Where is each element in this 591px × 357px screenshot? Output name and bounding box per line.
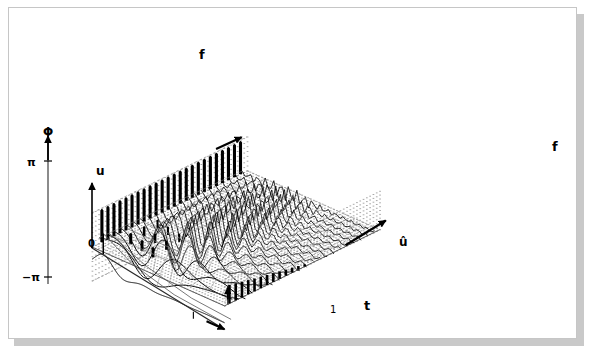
figure-root: f f t u û 0 1 Φ π −π <box>0 0 591 357</box>
axis-label-f-right: f <box>552 140 558 153</box>
t-tick-label-one: 1 <box>330 305 336 315</box>
figure-svg <box>0 0 591 357</box>
origin-tick-label: 0 <box>88 239 95 249</box>
axis-label-t: t <box>364 299 370 312</box>
figure-canvas: f f t u û 0 1 Φ π −π <box>0 0 591 357</box>
axis-label-u: u <box>96 165 105 177</box>
axis-label-f-back: f <box>199 48 205 61</box>
axis-label-phi: Φ <box>43 126 53 138</box>
phase-tick-neg-pi: −π <box>22 272 40 283</box>
phase-tick-pi: π <box>27 157 36 168</box>
axis-label-u-hat: û <box>399 236 408 248</box>
